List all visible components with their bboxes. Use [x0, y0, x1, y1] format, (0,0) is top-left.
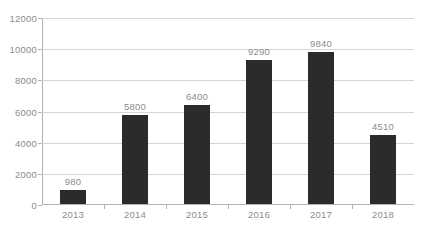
y-tick-label: 10000	[0, 44, 37, 55]
bar[interactable]	[308, 52, 334, 205]
y-tick-mark	[38, 174, 42, 175]
bar[interactable]	[370, 135, 396, 205]
x-tick-mark	[290, 205, 291, 209]
y-tick-label: 0	[0, 200, 37, 211]
bar[interactable]	[184, 105, 210, 205]
x-tick-label: 2017	[310, 209, 332, 220]
bar[interactable]	[60, 190, 86, 205]
x-tick-label: 2015	[186, 209, 208, 220]
bar-slot: 4510	[352, 18, 414, 205]
bar-slot: 980	[42, 18, 104, 205]
y-tick-label: 6000	[0, 106, 37, 117]
bar[interactable]	[246, 60, 272, 205]
bar-value-label: 980	[65, 176, 81, 187]
bar-value-label: 4510	[372, 121, 394, 132]
x-tick-label: 2016	[248, 209, 270, 220]
bar-value-label: 6400	[186, 91, 208, 102]
y-tick-label: 8000	[0, 75, 37, 86]
x-tick-label: 2013	[62, 209, 84, 220]
bar-value-label: 9840	[310, 38, 332, 49]
bar-chart: 020004000600080001000012000 980580064009…	[0, 0, 422, 242]
y-tick-mark	[38, 18, 42, 19]
y-tick-mark	[38, 80, 42, 81]
bar-slot: 5800	[104, 18, 166, 205]
y-tick-mark	[38, 205, 42, 206]
y-tick-label: 2000	[0, 168, 37, 179]
y-tick-mark	[38, 49, 42, 50]
bar-slot: 9290	[228, 18, 290, 205]
x-tick-mark	[104, 205, 105, 209]
bar-value-label: 9290	[248, 46, 270, 57]
bar-slot: 9840	[290, 18, 352, 205]
y-tick-label: 4000	[0, 137, 37, 148]
y-tick-mark	[38, 143, 42, 144]
x-tick-mark	[228, 205, 229, 209]
x-tick-mark	[352, 205, 353, 209]
x-tick-mark	[166, 205, 167, 209]
x-tick-label: 2018	[372, 209, 394, 220]
y-tick-mark	[38, 112, 42, 113]
y-tick-label: 12000	[0, 13, 37, 24]
bar-value-label: 5800	[124, 101, 146, 112]
bar-slot: 6400	[166, 18, 228, 205]
x-tick-label: 2014	[124, 209, 146, 220]
plot-area: 98058006400929098404510	[42, 18, 414, 205]
bar[interactable]	[122, 115, 148, 205]
